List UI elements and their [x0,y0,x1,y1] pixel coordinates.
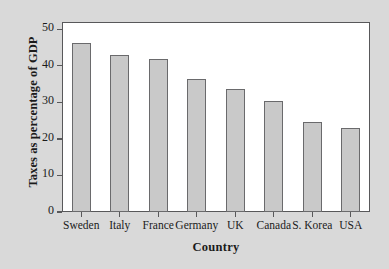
plot-area [62,22,370,212]
bar-canada [264,101,283,212]
y-tick-mark [57,29,62,30]
bar-sweden [72,43,91,212]
bar-uk [226,89,245,213]
y-tick-label: 40 [42,57,54,72]
y-tick-mark [57,211,62,212]
bar-france [149,59,168,212]
x-tick-mark [119,212,120,217]
bar-usa [341,128,360,212]
y-tick-label: 0 [48,203,54,218]
x-tick-mark [158,212,159,217]
x-tick-mark [273,212,274,217]
y-tick-mark [57,65,62,66]
y-tick-mark [57,102,62,103]
y-tick-mark [57,138,62,139]
bar-s-korea [303,122,322,212]
y-tick-label: 30 [42,93,54,108]
bar-germany [187,79,206,212]
y-tick-label: 50 [42,20,54,35]
x-tick-mark [350,212,351,217]
y-tick-mark [57,175,62,176]
y-axis-title: Taxes as percentage of GDP [22,6,44,218]
bar-chart-figure: Taxes as percentage of GDP 01020304050 S… [0,0,389,269]
x-tick-mark [196,212,197,217]
y-tick-label: 20 [42,130,54,145]
bar-italy [110,55,129,212]
y-tick-label: 10 [42,166,54,181]
x-tick-mark [235,212,236,217]
x-tick-mark [312,212,313,217]
x-tick-mark [81,212,82,217]
x-axis-title: Country [62,240,370,255]
x-tick-label: USA [301,219,389,231]
